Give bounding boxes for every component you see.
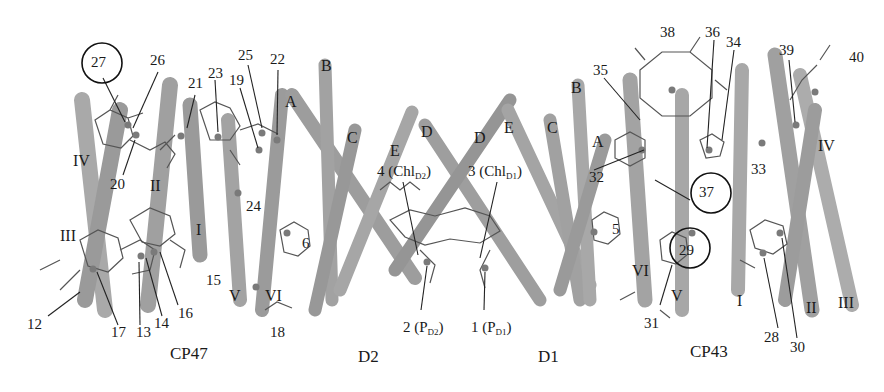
pigment-label: 33 — [751, 162, 766, 177]
pigment-label: 19 — [229, 73, 244, 88]
pigment-label-circled: 37 — [699, 185, 714, 200]
pigment-label: 39 — [779, 43, 794, 58]
helix-label: II — [150, 178, 161, 194]
pigment-label: 12 — [27, 317, 42, 332]
helix-label: B — [321, 58, 332, 74]
pigment-label-circled: 29 — [679, 243, 694, 258]
helix-label: C — [347, 130, 358, 146]
pigment-label: 26 — [150, 53, 165, 68]
pigment-label: 22 — [270, 52, 285, 67]
cp43-helices — [630, 55, 852, 310]
pigment-label: 35 — [593, 63, 608, 78]
pigment-label: 40 — [849, 50, 864, 65]
helix-label: D — [421, 124, 433, 140]
helix-label: II — [806, 300, 817, 316]
pigment-label-circled: 27 — [91, 55, 106, 70]
helix-label: I — [196, 222, 201, 238]
pigment-label: 5 — [612, 222, 620, 237]
helix-label: E — [390, 143, 400, 159]
pigment-label: 32 — [589, 170, 604, 185]
helix-label: IV — [73, 153, 90, 169]
pigment-label: 20 — [110, 177, 125, 192]
pigment-label: 23 — [208, 66, 223, 81]
helix-label: III — [60, 228, 76, 244]
pigment-label: 6 — [302, 236, 310, 251]
pigment-label: 4 (ChlD2) — [377, 164, 431, 181]
pigment-label: 1 (PD1) — [471, 320, 512, 337]
pigment-label: 3 (ChlD1) — [468, 164, 522, 181]
pigment-label: 17 — [111, 325, 126, 340]
helix-label: B — [571, 80, 582, 96]
pigment-label: 14 — [154, 316, 169, 331]
helix-label: A — [285, 94, 297, 110]
helix-label: C — [547, 120, 558, 136]
group-label-cp43: CP43 — [690, 343, 728, 360]
pigment-label: 34 — [726, 35, 741, 50]
pigment-label: 16 — [178, 306, 193, 321]
pigment-label: 28 — [764, 330, 779, 345]
pigment-label: 15 — [206, 273, 221, 288]
helix-label: V — [229, 288, 241, 304]
helix-label: VI — [632, 263, 649, 279]
pigment-label: 18 — [270, 325, 285, 340]
psii-structure-figure: CP47D2D1CP43IVIIIIIIVVIABCEDDECBAIVVIVII… — [0, 0, 884, 392]
pigment-label: 13 — [136, 325, 151, 340]
pigment-label: 38 — [660, 25, 675, 40]
helix-label: VI — [265, 288, 282, 304]
helix-label: D — [474, 130, 486, 146]
helix-label: III — [838, 295, 854, 311]
helix-label: I — [737, 293, 742, 309]
pigment-label: 21 — [188, 76, 203, 91]
group-label-d2: D2 — [358, 348, 379, 365]
group-label-cp47: CP47 — [170, 345, 208, 362]
pigment-label: 30 — [790, 340, 805, 355]
pigment-label: 2 (PD2) — [403, 320, 444, 337]
pigment-label: 25 — [238, 48, 253, 63]
pigment-label: 36 — [705, 25, 720, 40]
group-label-d1: D1 — [538, 348, 559, 365]
pigment-label: 31 — [644, 316, 659, 331]
helix-label: A — [592, 134, 604, 150]
helix-label: V — [671, 288, 683, 304]
helix-label: E — [504, 120, 514, 136]
helix-label: IV — [818, 138, 835, 154]
pigment-label: 24 — [246, 199, 261, 214]
